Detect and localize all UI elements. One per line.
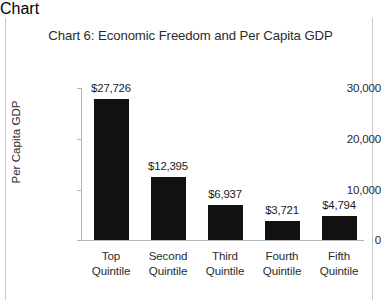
y-tick-label-10000: 10,000 xyxy=(305,184,381,196)
bar-value-fifth-quintile: $4,794 xyxy=(304,199,374,211)
bar-third-quintile xyxy=(208,205,243,240)
x-category-line1-fifth-quintile: Fifth xyxy=(304,249,374,264)
bar-fifth-quintile xyxy=(322,216,357,240)
y-tick-label-30000: 30,000 xyxy=(305,82,381,94)
bar-value-second-quintile: $12,395 xyxy=(133,160,203,172)
y-axis-line xyxy=(81,88,82,241)
plot-area: Per Capita GDP 30,000 20,000 10,000 0 $2… xyxy=(0,18,381,300)
y-tick-label-20000: 20,000 xyxy=(305,133,381,145)
x-axis-line xyxy=(81,240,364,241)
chart-page: Chart 6: Economic Freedom and Per Capita… xyxy=(0,18,381,300)
bar-value-third-quintile: $6,937 xyxy=(190,188,260,200)
x-category-label-fifth-quintile: Fifth Quintile xyxy=(304,249,374,278)
bar-fourth-quintile xyxy=(265,221,300,240)
x-category-line2-fifth-quintile: Quintile xyxy=(304,264,374,279)
bar-value-top-quintile: $27,726 xyxy=(76,82,146,94)
bar-second-quintile xyxy=(151,177,186,240)
y-axis-title: Per Capita GDP xyxy=(10,82,22,202)
bar-top-quintile xyxy=(94,99,129,240)
